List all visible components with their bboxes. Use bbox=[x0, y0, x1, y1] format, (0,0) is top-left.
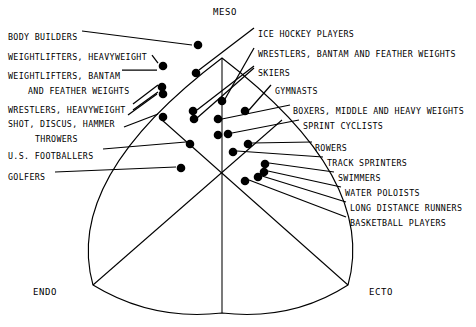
data-point-weightlifters-bantam-b bbox=[159, 90, 168, 99]
data-point-boxers-middle-heavy bbox=[214, 115, 223, 124]
label-and-feather-weights: AND FEATHER WEIGHTS bbox=[28, 87, 130, 95]
shield-boundary bbox=[88, 58, 353, 314]
label-rowers: ROWERS bbox=[315, 144, 347, 152]
label-boxers-middle-heavy: BOXERS, MIDDLE AND HEAVY WEIGHTS bbox=[293, 107, 464, 115]
data-point-basketball-players bbox=[241, 177, 250, 186]
leader-sprint-cyclists bbox=[232, 120, 299, 133]
leader-water-poloists bbox=[268, 171, 341, 187]
data-point-sprint-cyclists-b bbox=[224, 130, 233, 139]
data-point-long-distance-runners bbox=[254, 173, 263, 182]
shield-outline bbox=[88, 58, 353, 314]
data-point-skiers-b bbox=[190, 115, 199, 124]
label-long-distance-runners: LONG DISTANCE RUNNERS bbox=[350, 204, 462, 212]
data-point-body-builders bbox=[194, 41, 203, 50]
label-ice-hockey-players: ICE HOCKEY PLAYERS bbox=[258, 30, 354, 38]
label-basketball-players: BASKETBALL PLAYERS bbox=[350, 219, 446, 227]
data-point-ice-hockey-players bbox=[192, 69, 201, 78]
leader-us-footballers bbox=[103, 142, 186, 149]
label-body-builders: BODY BUILDERS bbox=[8, 33, 78, 41]
axis-label-meso: MESO bbox=[213, 8, 237, 17]
leader-wrestlers-bantam bbox=[225, 48, 254, 99]
label-water-poloists: WATER POLOISTS bbox=[345, 189, 420, 197]
label-swimmers: SWIMMERS bbox=[338, 174, 381, 182]
data-point-us-footballers bbox=[186, 140, 195, 149]
leader-track-sprinters bbox=[237, 151, 323, 157]
label-wrestlers-bantam-feather: WRESTLERS, BANTAM AND FEATHER WEIGHTS bbox=[258, 50, 456, 58]
leader-golfers bbox=[55, 167, 176, 172]
data-point-swimmers bbox=[261, 160, 270, 169]
label-throwers: THROWERS bbox=[35, 135, 78, 143]
data-point-skiers-a bbox=[189, 107, 198, 116]
leader-shot-discus bbox=[124, 114, 158, 127]
data-point-weightlifters-heavyweight bbox=[159, 62, 168, 71]
data-point-sprint-cyclists-a bbox=[214, 131, 223, 140]
somatochart-figure: BODY BUILDERSWEIGHTLIFTERS, HEAVYWEIGHTW… bbox=[0, 0, 476, 327]
label-shot-discus-hammer: SHOT, DISCUS, HAMMER bbox=[8, 120, 115, 128]
data-point-shot-discus-hammer bbox=[159, 113, 168, 122]
leader-weightlifters-heavyweight bbox=[152, 55, 158, 63]
shield-inner-lines bbox=[93, 58, 348, 313]
label-wrestlers-heavyweight: WRESTLERS, HEAVYWEIGHT bbox=[8, 106, 126, 114]
axis-label-endo: ENDO bbox=[33, 288, 57, 297]
label-us-footballers: U.S. FOOTBALLERS bbox=[8, 152, 94, 160]
leader-rowers bbox=[252, 142, 312, 143]
leader-basketball bbox=[249, 180, 346, 217]
data-point-golfers bbox=[177, 164, 186, 173]
leader-body-builders bbox=[82, 31, 192, 45]
label-track-sprinters: TRACK SPRINTERS bbox=[327, 159, 407, 167]
leader-boxers bbox=[222, 105, 290, 119]
data-point-track-sprinters bbox=[229, 148, 238, 157]
leader-swimmers bbox=[269, 163, 334, 172]
label-skiers: SKIERS bbox=[258, 69, 290, 77]
label-weightlifters-heavyweight: WEIGHTLIFTERS, HEAVYWEIGHT bbox=[8, 53, 147, 61]
leader-long-distance bbox=[262, 176, 346, 202]
data-point-wrestlers-bantam-feather bbox=[218, 97, 227, 106]
label-golfers: GOLFERS bbox=[8, 173, 45, 181]
data-point-gymnasts bbox=[241, 107, 250, 116]
axis-label-ecto: ECTO bbox=[369, 288, 393, 297]
label-sprint-cyclists: SPRINT CYCLISTS bbox=[303, 122, 383, 130]
data-point-rowers bbox=[244, 140, 253, 149]
label-gymnasts: GYMNASTS bbox=[275, 87, 318, 95]
label-weightlifters-bantam: WEIGHTLIFTERS, BANTAM bbox=[8, 72, 120, 80]
